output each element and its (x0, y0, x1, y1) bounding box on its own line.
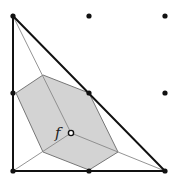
center-point-open-circle (68, 130, 73, 135)
lattice-point (10, 168, 15, 173)
lattice-point (86, 13, 91, 18)
shaded-hexagon (16, 75, 118, 170)
lattice-point (10, 13, 15, 18)
lattice-polygon-diagram: f (0, 0, 179, 181)
lattice-point (10, 90, 15, 95)
lattice-point (162, 168, 167, 173)
lattice-point (162, 90, 167, 95)
lattice-point (86, 168, 91, 173)
lattice-point (162, 13, 167, 18)
lattice-point (86, 90, 91, 95)
